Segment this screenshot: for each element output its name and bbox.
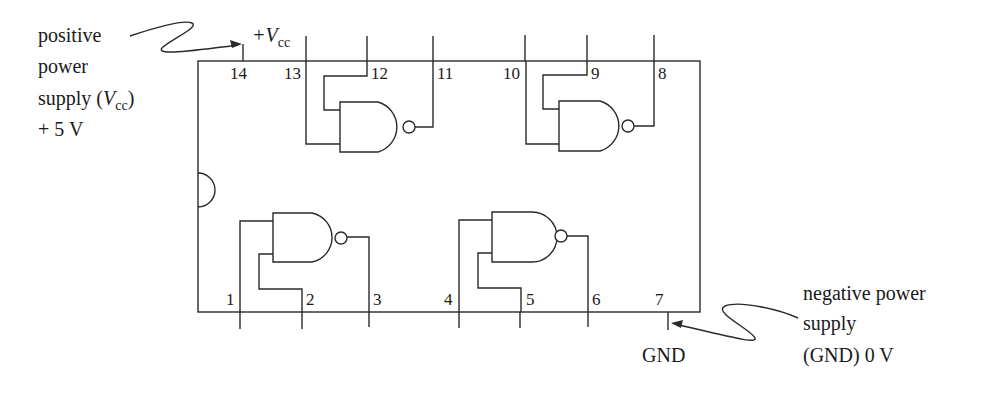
positive-annotation-line-3: supply (Vcc) [38,87,134,113]
pin-12-label: 12 [371,64,388,83]
nand-gate-4-body [559,101,619,151]
ic-package [198,61,700,312]
nand-gate-3-body [340,102,397,152]
gate-3-inversion-bubble [403,121,415,133]
ic-body-outline [198,61,700,312]
gnd-pin-label: GND [642,344,685,366]
gate-2-inversion-bubble [555,230,567,242]
vcc-subscript: cc [278,35,290,50]
negative-annotation-line-3: (GND) 0 V [803,344,894,367]
gate-1-output-wire [347,237,369,312]
svg-text:+Vcc: +Vcc [252,24,290,50]
bottom-pins: 1 2 3 4 5 6 7 [226,290,668,330]
positive-annotation-leader-line [130,22,238,52]
top-pins: 14 13 12 11 10 9 8 [230,35,667,83]
gate-4-output-wire [634,61,654,126]
positive-annotation-arrowhead-icon [230,40,242,48]
pin-2-label: 2 [306,290,315,309]
pin-13-label: 13 [284,64,301,83]
pin-7-label: 7 [655,290,664,309]
gate-1-inversion-bubble [335,232,347,244]
gate-3-output-wire [415,61,433,127]
vcc-pin-label: +Vcc [252,24,290,50]
pin-1-label: 1 [226,290,235,309]
negative-annotation-leader-line [675,304,798,340]
pin-4-label: 4 [444,290,453,309]
gate-4-inversion-bubble [622,120,634,132]
gate-3-input-a-wire [306,61,340,144]
negative-supply-annotation: negative power supply (GND) 0 V [671,282,926,367]
nand-gate-3 [306,61,433,152]
nand-gate-1 [240,213,369,312]
gate-2-input-a-wire [459,220,492,312]
pin-14-label: 14 [230,64,248,83]
negative-annotation-line-2: supply [803,312,856,335]
pin-10-label: 10 [503,64,520,83]
positive-annotation-line-1: positive [38,24,101,47]
pin-3-label: 3 [373,290,382,309]
nand-gate-2-body [492,212,557,262]
positive-annotation-line-4: + 5 V [38,118,84,140]
nand-gate-2 [459,212,588,312]
pin-5-label: 5 [526,290,535,309]
nand-ic-pinout-diagram: 14 13 12 11 10 9 8 1 2 3 4 5 6 7 [0,0,999,397]
pin-11-label: 11 [437,64,453,83]
positive-supply-annotation: positive power supply (Vcc) + 5 V [38,22,242,140]
nand-gate-4 [526,61,654,151]
pin-8-label: 8 [658,64,667,83]
positive-annotation-line-2: power [38,55,88,78]
pin-9-label: 9 [591,64,600,83]
negative-annotation-arrowhead-icon [671,320,683,328]
orientation-notch [198,173,215,207]
negative-annotation-line-1: negative power [803,282,926,305]
gate-2-output-wire [567,236,588,312]
pin-6-label: 6 [592,290,601,309]
nand-gate-1-body [273,213,332,262]
vcc-prefix: +V [252,24,280,46]
gate-1-input-a-wire [240,221,273,312]
